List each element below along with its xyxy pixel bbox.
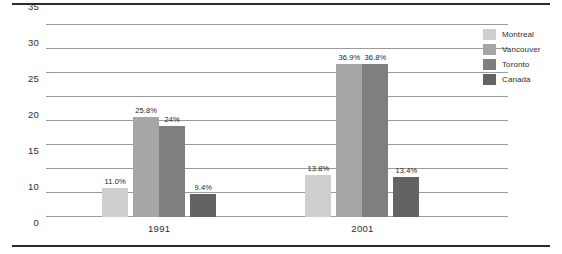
bottom-rule	[12, 245, 550, 247]
legend-item-toronto[interactable]: Toronto	[483, 58, 541, 70]
legend-label: Vancouver	[502, 45, 541, 54]
plot-area: 01015202530354045 11.0%25.8%24%9.4%13.8%…	[46, 25, 508, 217]
bar-rect	[305, 175, 331, 217]
bar-group: 13.8%36.9%36.8%13.4%	[46, 25, 508, 217]
bar-toronto-2001[interactable]: 36.8%	[362, 25, 388, 217]
bar-rect	[393, 177, 419, 217]
x-axis: 19912001	[46, 218, 508, 238]
legend-swatch-icon	[483, 44, 496, 55]
bar-value-label: 13.8%	[308, 164, 330, 173]
bar-rect	[336, 64, 362, 217]
bar-groups: 11.0%25.8%24%9.4%13.8%36.9%36.8%13.4%	[46, 25, 508, 217]
legend-label: Montreal	[502, 30, 534, 39]
bar-value-label: 36.9%	[339, 53, 361, 62]
chart-figure: 01015202530354045 11.0%25.8%24%9.4%13.8%…	[0, 0, 562, 254]
chart-legend: MontrealVancouverTorontoCanada	[483, 28, 541, 85]
legend-label: Canada	[502, 75, 531, 84]
x-axis-tick-label: 2001	[351, 223, 373, 234]
bar-montreal-2001[interactable]: 13.8%	[305, 25, 331, 217]
top-rule	[12, 3, 550, 5]
legend-swatch-icon	[483, 29, 496, 40]
legend-item-montreal[interactable]: Montreal	[483, 28, 541, 40]
bar-rect	[362, 64, 388, 217]
legend-swatch-icon	[483, 59, 496, 70]
bar-value-label: 13.4%	[396, 166, 418, 175]
legend-swatch-icon	[483, 74, 496, 85]
bar-vancouver-2001[interactable]: 36.9%	[336, 25, 362, 217]
y-axis-tick-label: 45	[28, 0, 39, 121]
x-axis-tick-label: 1991	[148, 223, 170, 234]
bar-value-label: 36.8%	[365, 53, 387, 62]
legend-label: Toronto	[502, 60, 529, 69]
legend-item-vancouver[interactable]: Vancouver	[483, 43, 541, 55]
bar-canada-2001[interactable]: 13.4%	[393, 25, 419, 217]
legend-item-canada[interactable]: Canada	[483, 73, 541, 85]
